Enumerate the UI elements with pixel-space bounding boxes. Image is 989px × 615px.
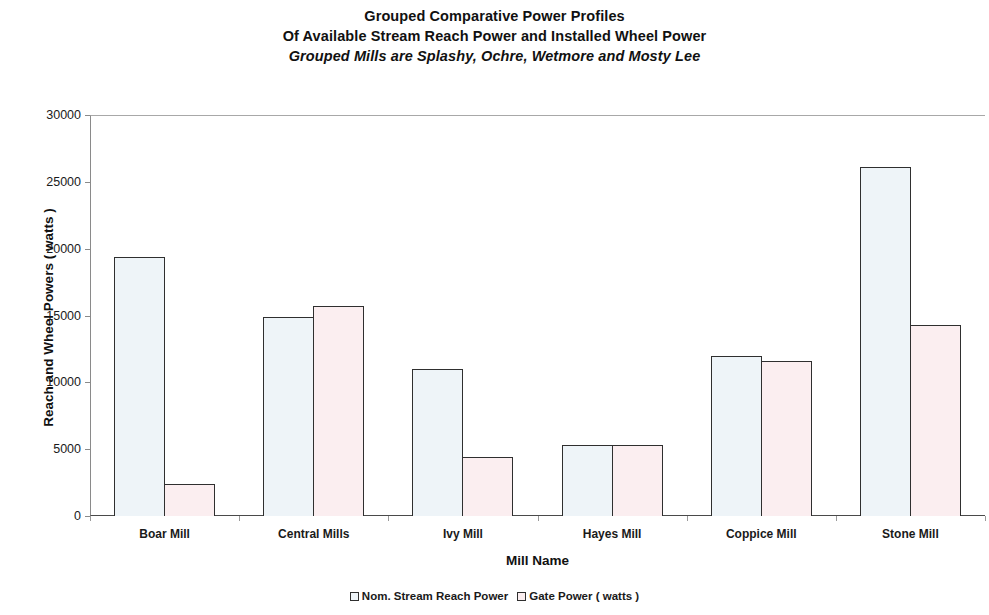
bar-group (90, 115, 239, 516)
chart-container: Grouped Comparative Power Profiles Of Av… (0, 0, 989, 615)
legend-item[interactable]: Nom. Stream Reach Power (350, 590, 508, 602)
y-tick-label: 15000 (46, 309, 81, 323)
x-tick-label: Ivy Mill (388, 527, 537, 541)
chart-title-line-2: Of Available Stream Reach Power and Inst… (0, 26, 989, 46)
x-tick-mark (388, 516, 389, 521)
bar[interactable] (313, 306, 364, 516)
x-tick-mark (90, 516, 91, 521)
chart-title-line-1: Grouped Comparative Power Profiles (0, 6, 989, 26)
x-axis-labels: Boar MillCentral MillsIvy MillHayes Mill… (90, 527, 985, 541)
bar[interactable] (462, 457, 513, 516)
plot-area: 050001000015000200002500030000 (90, 115, 985, 516)
x-tick-mark (239, 516, 240, 521)
bar[interactable] (612, 445, 663, 516)
legend-swatch-icon (517, 592, 526, 601)
legend-label: Gate Power ( watts ) (529, 590, 639, 602)
bar-groups (90, 115, 985, 516)
bar[interactable] (910, 325, 961, 516)
y-tick-label: 10000 (46, 375, 81, 389)
bar[interactable] (711, 356, 762, 516)
x-tick-label: Boar Mill (90, 527, 239, 541)
chart-title-block: Grouped Comparative Power Profiles Of Av… (0, 6, 989, 66)
y-tick-label: 0 (74, 509, 81, 523)
x-tick-mark (985, 516, 986, 521)
x-tick-label: Stone Mill (836, 527, 985, 541)
x-tick-label: Central Mills (239, 527, 388, 541)
bar[interactable] (562, 445, 613, 516)
chart-title-line-3: Grouped Mills are Splashy, Ochre, Wetmor… (0, 46, 989, 66)
x-tick-mark (538, 516, 539, 521)
bar[interactable] (114, 257, 165, 516)
x-tick-label: Coppice Mill (687, 527, 836, 541)
bar-group (836, 115, 985, 516)
x-tick-label: Hayes Mill (538, 527, 687, 541)
bar-group (239, 115, 388, 516)
legend-swatch-icon (350, 592, 359, 601)
y-tick-label: 30000 (46, 108, 81, 122)
legend-item[interactable]: Gate Power ( watts ) (517, 590, 639, 602)
bar-group (687, 115, 836, 516)
bar[interactable] (860, 167, 911, 516)
bar[interactable] (164, 484, 215, 516)
x-tick-mark (836, 516, 837, 521)
bar-group (388, 115, 537, 516)
y-tick-label: 25000 (46, 175, 81, 189)
bar[interactable] (412, 369, 463, 516)
chart-legend: Nom. Stream Reach PowerGate Power ( watt… (0, 590, 989, 602)
bar-group (538, 115, 687, 516)
y-tick-label: 5000 (53, 442, 81, 456)
legend-label: Nom. Stream Reach Power (362, 590, 508, 602)
bar[interactable] (761, 361, 812, 516)
bar[interactable] (263, 317, 314, 516)
x-tick-mark (687, 516, 688, 521)
y-tick-label: 20000 (46, 242, 81, 256)
x-axis-title: Mill Name (90, 553, 985, 568)
